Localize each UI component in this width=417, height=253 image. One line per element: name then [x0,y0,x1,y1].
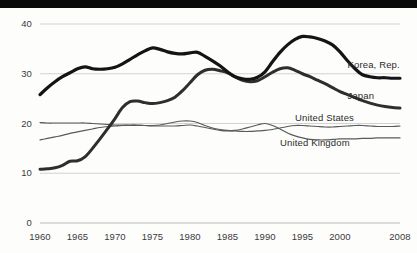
x-tick-label: 2000 [323,231,357,242]
x-tick-label: 1985 [211,231,245,242]
series-label-united-states: United States [295,112,354,123]
x-tick-label: 1975 [136,231,170,242]
x-tick-label: 1965 [61,231,95,242]
x-tick-label: 2008 [383,231,417,242]
x-tick-label: 1960 [23,231,57,242]
series-label-united-kingdom: United Kingdom [280,137,350,148]
series-label-korea-rep: Korea, Rep. [348,59,400,70]
line-chart: 010203040 196019651970197519801985199019… [0,8,417,253]
y-tick-label: 10 [6,167,32,178]
series-line-korea-rep [40,36,400,94]
y-tick-label: 30 [6,68,32,79]
y-tick-label: 0 [6,217,32,228]
x-tick-label: 1970 [98,231,132,242]
series-label-japan: Japan [348,90,375,101]
grid-lines [40,24,400,173]
y-tick-label: 20 [6,118,32,129]
chart-canvas [0,8,417,253]
x-tick-label: 1995 [286,231,320,242]
x-tick-label: 1990 [248,231,282,242]
chart-screenshot: 010203040 196019651970197519801985199019… [0,0,417,253]
series-group [40,36,400,169]
x-tick-label: 1980 [173,231,207,242]
y-tick-label: 40 [6,18,32,29]
top-black-band [0,0,417,8]
